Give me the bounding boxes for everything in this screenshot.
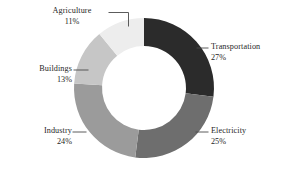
donut-slice-transportation[interactable] (144, 18, 214, 97)
callout-agriculture-percent: 11% (36, 17, 108, 28)
callout-buildings[interactable]: Buildings 13% (4, 64, 72, 85)
donut-slice-electricity[interactable] (135, 93, 213, 158)
callout-industry-percent: 24% (10, 137, 72, 148)
callout-agriculture[interactable]: Agriculture 11% (36, 6, 108, 27)
callout-electricity-percent: 25% (211, 137, 281, 148)
callout-transportation[interactable]: Transportation 27% (211, 42, 285, 63)
callout-agriculture-category: Agriculture (36, 6, 108, 17)
callout-buildings-category: Buildings (4, 64, 72, 75)
callout-electricity-category: Electricity (211, 126, 281, 137)
callout-buildings-percent: 13% (4, 75, 72, 86)
callout-transportation-percent: 27% (211, 53, 285, 64)
callout-industry-category: Industry (10, 126, 72, 137)
callout-electricity[interactable]: Electricity 25% (211, 126, 281, 147)
donut-slices (74, 18, 214, 158)
donut-slice-industry[interactable] (74, 84, 139, 158)
donut-chart-figure: Agriculture 11% Transportation 27% Elect… (0, 0, 288, 170)
callout-industry[interactable]: Industry 24% (10, 126, 72, 147)
callout-transportation-category: Transportation (211, 42, 285, 53)
